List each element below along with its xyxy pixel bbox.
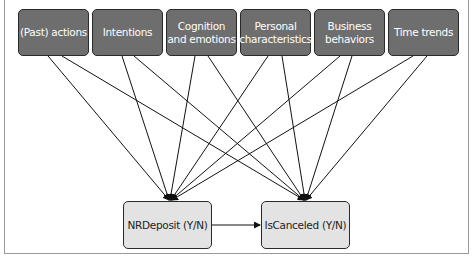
node-past-actions: (Past) actions (18, 9, 89, 56)
node-intentions: Intentions (92, 9, 163, 56)
node-personal-characteristics: Personal characteristics (240, 9, 311, 56)
edge-time-iscanceled (306, 56, 427, 200)
edge-time-nrdeposit (172, 56, 413, 200)
edge-personal-iscanceled (282, 56, 305, 200)
edge-personal-nrdeposit (171, 56, 268, 200)
node-time-trends: Time trends (388, 9, 459, 56)
node-business-behaviors: Business behaviors (314, 9, 385, 56)
node-cognition-emotions: Cognition and emotions (166, 9, 237, 56)
edge-past-nrdeposit (48, 56, 169, 200)
node-nrdeposit: NRDeposit (Y/N) (123, 201, 212, 249)
edge-intentions-nrdeposit (122, 56, 169, 200)
edge-business-nrdeposit (171, 56, 340, 200)
edge-cognition-nrdeposit (170, 56, 195, 200)
node-iscanceled: IsCanceled (Y/N) (261, 201, 350, 249)
edge-business-iscanceled (306, 56, 352, 200)
